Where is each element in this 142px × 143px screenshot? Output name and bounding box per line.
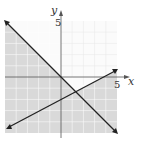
x-tick-label: 5: [114, 79, 120, 90]
x-axis-label: x: [128, 75, 135, 88]
y-axis-label: y: [50, 4, 58, 17]
graph-canvas: y 5 x 5: [0, 0, 142, 143]
inequality-graph: y 5 x 5: [0, 0, 142, 143]
y-tick-label: 5: [55, 17, 61, 28]
y-axis-arrow-icon: [59, 10, 63, 16]
